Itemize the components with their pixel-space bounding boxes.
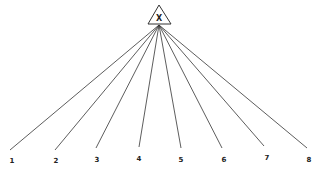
root-label: X (156, 14, 163, 23)
leaf-label-5: 5 (179, 156, 184, 164)
tree-diagram: X 12345678 (0, 0, 323, 172)
leaf-label-2: 2 (54, 157, 59, 165)
leaf-label-8: 8 (307, 156, 312, 164)
edge-5 (159, 25, 181, 148)
edge-2 (55, 25, 159, 150)
leaf-label-3: 3 (95, 156, 100, 164)
leaf-label-1: 1 (10, 157, 15, 165)
edge-4 (139, 25, 159, 147)
edges (10, 25, 307, 150)
leaf-label-7: 7 (265, 154, 270, 162)
edge-1 (10, 25, 159, 150)
leaf-labels: 12345678 (10, 154, 312, 165)
leaf-label-6: 6 (222, 156, 227, 164)
leaf-label-4: 4 (137, 155, 142, 163)
root-node: X (148, 5, 171, 24)
edge-8 (159, 25, 307, 148)
edge-3 (96, 25, 159, 148)
